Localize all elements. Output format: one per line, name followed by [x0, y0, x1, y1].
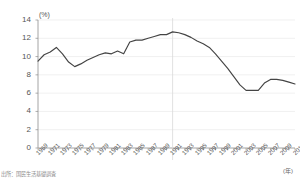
y-tick-label: 14: [13, 16, 31, 24]
y-tick-label: 10: [13, 53, 31, 61]
y-tick-label: 12: [13, 34, 31, 42]
y-tick-label: 8: [13, 71, 31, 79]
chart-container: 02468101214 (%) 196919711973197519771979…: [0, 0, 300, 178]
data-line-series-1: [38, 32, 295, 91]
source-note: 出所：国民生活基礎調査: [1, 171, 56, 177]
gridlines-group: [36, 20, 296, 148]
x-axis-unit-label: (年): [283, 168, 293, 174]
y-tick-label: 2: [13, 126, 31, 134]
y-axis-unit-label: (%): [39, 11, 50, 18]
y-tick-label: 4: [13, 107, 31, 115]
y-tick-label: 6: [13, 89, 31, 97]
y-tick-label: 0: [13, 144, 31, 152]
